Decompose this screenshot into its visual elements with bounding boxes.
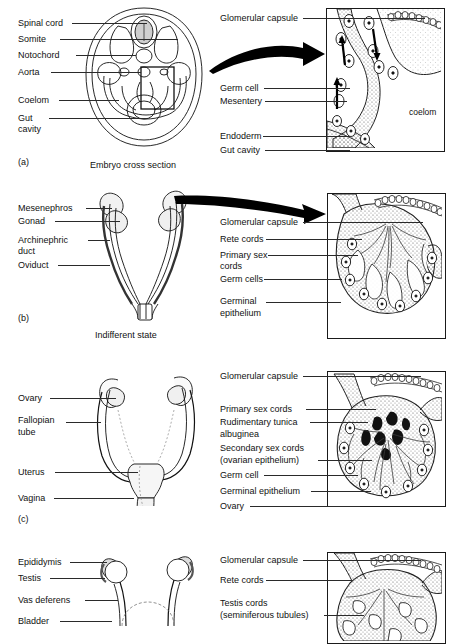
leader-primary-sex-b: [268, 255, 358, 256]
label-tube: tube: [18, 427, 36, 438]
label-uterus: Uterus: [18, 467, 45, 478]
label-germinal-epithelium-c: Germinal epithelium: [220, 486, 300, 497]
label-aorta: Aorta: [18, 67, 40, 78]
label-vagina: Vagina: [18, 493, 45, 504]
leader-notochord: [76, 55, 136, 56]
label-gut-cavity-2: cavity: [18, 124, 41, 135]
panel-letter-b: (b): [18, 313, 29, 323]
label-rete-cords-b: Rete cords: [220, 234, 264, 245]
leader-gut-cavity-a: [265, 150, 350, 151]
label-spinal-cord: Spinal cord: [18, 18, 63, 29]
label-ovary-c: Ovary: [18, 393, 42, 404]
leader-glomerular-capsule-a: [303, 18, 425, 19]
label-fallopian: Fallopian: [18, 415, 55, 426]
label-cords-b: cords: [220, 261, 242, 272]
leader-glomerular-capsule-b: [303, 222, 423, 223]
label-germ-cell-a: Germ cell: [220, 83, 259, 94]
leader-germ-cell-c: [264, 475, 358, 476]
leader-epididymis: [70, 562, 107, 563]
label-glomerular-capsule-d: Glomerular capsule: [220, 555, 298, 566]
label-albuginea: albuginea: [220, 429, 259, 440]
label-gut-cavity-a: Gut cavity: [220, 145, 260, 156]
leader-uterus: [55, 472, 138, 473]
label-rudimentary-tunica: Rudimentary tunica: [220, 417, 298, 428]
label-gut: Gut: [18, 113, 33, 124]
histology-box-a: coelom: [326, 8, 445, 152]
histology-box-d: [327, 552, 446, 644]
histology-box-c: [327, 371, 446, 507]
label-secondary-sex-cords: Secondary sex cords: [220, 443, 304, 454]
label-mesenephros: Mesenephros: [18, 203, 73, 214]
label-ovary-right-c: Ovary: [220, 501, 244, 512]
leader-oviduct: [58, 265, 110, 266]
label-primary-sex-cords-c: Primary sex cords: [220, 404, 292, 415]
leader-somite: [60, 39, 178, 40]
coelom-inset-label: coelom: [409, 107, 436, 117]
leader-germinal-epithelium-b: [266, 302, 341, 303]
leader-testis-cords-d: [324, 615, 364, 616]
label-germ-cell-c: Germ cell: [220, 470, 259, 481]
leader-coelom: [59, 100, 119, 101]
label-bladder: Bladder: [18, 616, 49, 627]
leader-mesenephros: [86, 208, 112, 209]
leader-germinal-epithelium-c: [311, 491, 371, 492]
label-ovarian-epithelium: (ovarian epithelium): [220, 455, 299, 466]
panel-letter-c: (c): [18, 514, 29, 524]
leader-spinal-cord: [72, 23, 147, 24]
label-seminiferous-tubules: (seminiferous tubules): [220, 610, 309, 621]
leader-glomerular-capsule-d: [303, 560, 421, 561]
leader-archinephric: [88, 240, 110, 241]
label-primary-sex-b: Primary sex: [220, 250, 268, 261]
caption-embryo-cross-section: Embryo cross section: [90, 160, 176, 171]
caption-indifferent-state: Indifferent state: [95, 330, 157, 341]
leader-fallopian: [66, 422, 101, 423]
label-glomerular-capsule-a: Glomerular capsule: [220, 13, 298, 24]
zoom-arrow-a-icon: [207, 38, 329, 74]
leader-gonad: [55, 221, 120, 222]
leader-gut-cavity: [49, 118, 146, 119]
label-gonad: Gonad: [18, 216, 45, 227]
leader-primary-sex-cords-c: [306, 409, 376, 410]
leader-ovary-right-c: [250, 506, 360, 507]
leader-endoderm-a: [263, 136, 350, 137]
label-epithelium-b: epithelium: [220, 308, 261, 319]
leader-ovary-c: [50, 398, 116, 399]
label-glomerular-capsule-c: Glomerular capsule: [220, 371, 298, 382]
label-somite: Somite: [18, 34, 46, 45]
leader-aorta: [51, 72, 141, 73]
female-tract-drawing: [82, 366, 210, 506]
label-notochord: Notochord: [18, 50, 60, 61]
embryo-cross-section-drawing: [78, 4, 210, 152]
histology-box-b: [327, 193, 446, 339]
label-coelom: Coelom: [18, 95, 49, 106]
label-vas-deferens: Vas deferens: [18, 595, 70, 606]
label-rete-cords-d: Rete cords: [220, 575, 264, 586]
label-duct: duct: [18, 246, 35, 257]
leader-germ-cell-a: [264, 88, 350, 89]
leader-mesentery-a: [265, 101, 347, 102]
label-germinal-b: Germinal: [220, 296, 257, 307]
label-mesentery-a: Mesentery: [220, 96, 262, 107]
label-archinephric: Archinephric: [18, 235, 68, 246]
leader-bladder: [60, 621, 112, 622]
label-endoderm-a: Endoderm: [220, 131, 262, 142]
label-germ-cells-b: Germ cells: [220, 274, 263, 285]
male-tract-drawing: [84, 548, 210, 626]
label-testis-cords: Testis cords: [220, 598, 268, 609]
leader-germ-cells-b: [264, 279, 342, 280]
leader-vas-deferens: [85, 600, 118, 601]
leader-vagina: [54, 498, 134, 499]
leader-rete-cords-d: [266, 580, 352, 581]
leader-secondary-sex-cords: [318, 460, 372, 461]
leader-rete-cords-b: [266, 239, 362, 240]
leader-glomerular-capsule-c: [303, 376, 421, 377]
panel-letter-a: (a): [18, 157, 29, 167]
leader-rudimentary-tunica: [310, 422, 368, 423]
label-testis: Testis: [18, 573, 41, 584]
leader-testis: [50, 578, 105, 579]
label-epididymis: Epididymis: [18, 557, 62, 568]
label-glomerular-capsule-b: Glomerular capsule: [220, 217, 298, 228]
label-oviduct: Oviduct: [18, 260, 49, 271]
